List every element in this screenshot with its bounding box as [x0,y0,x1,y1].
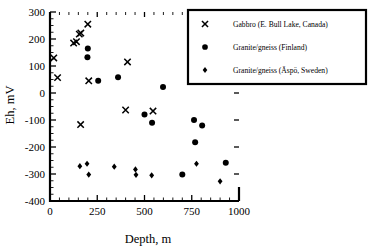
data-point-x [124,59,130,65]
data-point-circle [115,74,121,80]
data-point-circle [202,44,208,50]
data-point-circle [95,78,101,84]
y-tick-label: 100 [29,60,46,72]
chart-canvas: 02505007501000 3002001000-100-200-300-40… [0,0,369,250]
data-point-diamond [133,166,138,172]
chart-legend: Gabbro (E. Bull Lake, Canada)Granite/gne… [188,10,366,84]
data-point-circle [223,160,229,166]
data-point-x [86,78,92,84]
y-tick-label: -300 [25,168,46,180]
y-tick-label: -400 [25,195,46,207]
data-series [77,161,222,185]
data-point-circle [142,112,148,118]
y-axis-title: Eh, mV [3,86,17,125]
data-point-diamond [85,161,90,167]
y-axis-tick-labels: 3002001000-100-200-300-400 [25,6,46,207]
data-point-diamond [77,163,82,169]
data-point-circle [160,84,166,90]
data-point-diamond [149,172,154,178]
data-point-circle [85,45,91,51]
x-tick-label: 1000 [228,205,251,217]
x-axis-tick-labels: 02505007501000 [47,205,250,217]
data-point-diamond [134,172,139,178]
data-point-x [85,21,91,27]
data-point-x [77,121,83,127]
x-tick-label: 0 [47,205,53,217]
y-tick-label: -200 [25,141,46,153]
data-series [51,21,157,128]
data-point-circle [192,139,198,145]
legend-item-label: Granite/gneiss (Finland) [233,43,307,52]
x-tick-label: 500 [136,205,153,217]
data-point-circle [199,122,205,128]
data-point-diamond [194,161,199,167]
data-point-x [122,107,128,113]
legend-item-label: Granite/gneiss (Äspö, Sweden) [233,66,328,75]
data-point-diamond [112,164,117,170]
data-point-x [150,108,156,114]
scatter-chart-figure: 02505007501000 3002001000-100-200-300-40… [0,0,369,250]
data-point-x [54,74,60,80]
y-tick-label: 0 [40,87,46,99]
legend-item-label: Gabbro (E. Bull Lake, Canada) [233,20,328,29]
y-tick-label: 300 [29,6,46,18]
data-point-circle [84,54,90,60]
data-point-circle [191,117,197,123]
x-axis-title: Depth, m [125,232,172,246]
data-point-diamond [218,178,223,184]
x-tick-label: 250 [89,205,106,217]
y-tick-label: 200 [29,33,46,45]
data-point-diamond [86,171,91,177]
data-point-x [51,55,57,61]
data-point-circle [179,172,185,178]
y-tick-label: -100 [25,114,46,126]
data-point-circle [149,120,155,126]
x-tick-label: 750 [184,205,201,217]
